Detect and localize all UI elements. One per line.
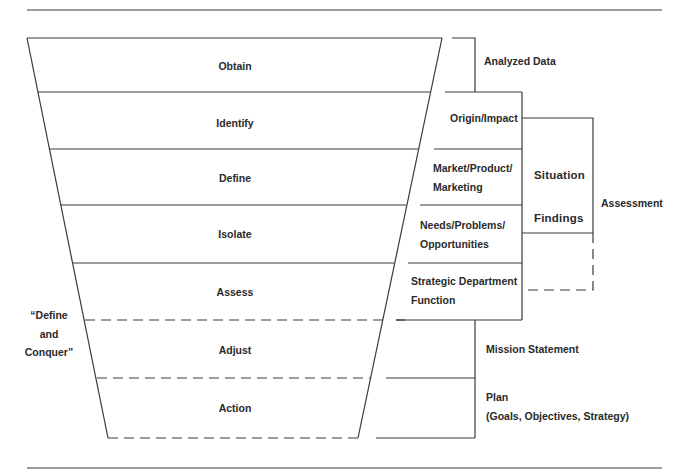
box-needs-problems-opportunities: Needs/Problems/ Opportunities bbox=[420, 216, 505, 253]
stage-action: Action bbox=[219, 403, 252, 414]
mission-statement-label: Mission Statement bbox=[486, 344, 579, 355]
funnel-left-edge bbox=[27, 38, 108, 438]
assessment-label: Assessment bbox=[601, 198, 663, 209]
stage-obtain: Obtain bbox=[218, 61, 251, 72]
situation-label: Situation bbox=[534, 170, 585, 182]
plan-label: Plan (Goals, Objectives, Strategy) bbox=[486, 388, 629, 425]
stage-assess: Assess bbox=[217, 287, 254, 298]
define-and-conquer-label: “Define and Conquer” bbox=[25, 306, 73, 362]
analyzed-data-label: Analyzed Data bbox=[484, 56, 556, 67]
findings-label: Findings bbox=[534, 213, 584, 225]
stage-define: Define bbox=[219, 173, 251, 184]
stage-adjust: Adjust bbox=[219, 345, 252, 356]
analyzed-data-bracket bbox=[452, 38, 475, 92]
box-strategic-department-function: Strategic Department Function bbox=[411, 272, 517, 309]
stage-identify: Identify bbox=[216, 118, 253, 129]
box-origin-impact: Origin/Impact bbox=[450, 113, 518, 124]
box-market-product-marketing: Market/Product/ Marketing bbox=[433, 159, 512, 196]
stage-isolate: Isolate bbox=[218, 229, 251, 240]
